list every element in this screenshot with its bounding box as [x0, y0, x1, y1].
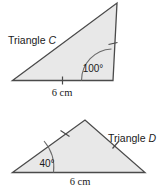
- triangle-d-name-letter: D: [148, 132, 156, 144]
- triangle-d-base-label: 6 cm: [70, 176, 91, 187]
- triangle-c-name-label: Triangle C: [8, 34, 56, 46]
- triangle-c-angle-label: 100°: [83, 63, 104, 74]
- geometry-figure: Triangle C 100° 6 cm Triangle D 40° 6 cm: [0, 0, 166, 189]
- triangle-d-shape: [13, 120, 146, 173]
- triangle-c-name-text: Triangle: [8, 34, 48, 46]
- triangle-d-name-text: Triangle: [108, 132, 148, 144]
- triangle-c-name-letter: C: [48, 34, 56, 46]
- triangles-canvas: Triangle C 100° 6 cm Triangle D 40° 6 cm: [0, 0, 166, 189]
- triangle-d-angle-label: 40°: [39, 158, 54, 169]
- triangle-c-base-label: 6 cm: [52, 87, 73, 98]
- triangle-d-group: [13, 120, 146, 173]
- triangle-d-name-label: Triangle D: [108, 132, 156, 144]
